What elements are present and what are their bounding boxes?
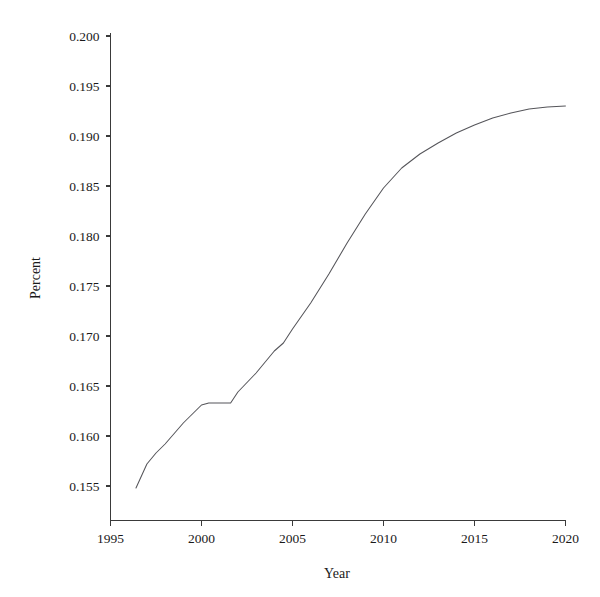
y-tick-label: 0.165	[69, 379, 100, 394]
y-tick-label: 0.155	[69, 479, 100, 494]
y-axis-ticks: 0.1550.1600.1650.1700.1750.1800.1850.190…	[69, 29, 110, 494]
y-tick-label: 0.185	[69, 179, 100, 194]
x-tick-label: 2005	[279, 531, 306, 546]
x-tick-label: 2000	[188, 531, 215, 546]
x-axis-ticks: 199520002005201020152020	[97, 521, 579, 547]
chart-figure: Percent Year 0.1550.1600.1650.1700.1750.…	[0, 0, 600, 597]
x-tick-label: 1995	[97, 531, 124, 546]
y-tick-label: 0.170	[69, 329, 100, 344]
x-tick-label: 2020	[552, 531, 579, 546]
y-tick-label: 0.160	[69, 429, 100, 444]
x-tick-label: 2015	[461, 531, 488, 546]
y-tick-label: 0.200	[69, 29, 100, 44]
y-tick-label: 0.195	[69, 79, 100, 94]
x-tick-label: 2010	[370, 531, 397, 546]
data-line-percent	[136, 106, 566, 488]
y-axis-title: Percent	[28, 257, 43, 299]
x-axis-title: Year	[324, 566, 350, 581]
y-tick-label: 0.175	[69, 279, 100, 294]
line-chart: Percent Year 0.1550.1600.1650.1700.1750.…	[0, 0, 600, 597]
y-tick-label: 0.180	[69, 229, 100, 244]
y-tick-label: 0.190	[69, 129, 100, 144]
data-series-group	[136, 106, 566, 488]
